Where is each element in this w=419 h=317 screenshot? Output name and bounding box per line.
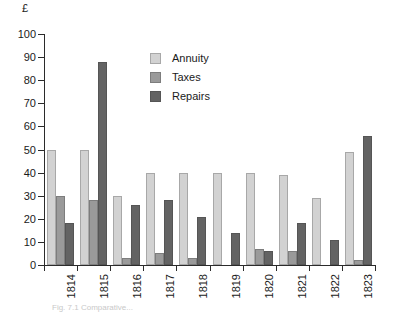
y-axis-tick-label-text: 10 [2,237,36,248]
x-axis-label-1820: 1820 [264,274,275,298]
legend-swatch-repairs [150,91,161,102]
bar-1817-repairs [164,200,173,265]
bar-1815-annuity [80,150,89,266]
x-axis-label-1816: 1816 [132,274,143,298]
y-axis-tick-label: 20 [0,214,36,225]
bar-1822-annuity [312,198,321,265]
y-axis-tick-label: 40 [0,168,36,179]
x-axis-label-1818: 1818 [198,274,209,298]
y-axis-unit-label: £ [22,2,28,14]
legend-label-taxes: Taxes [172,72,201,83]
bar-1819-repairs [231,233,240,265]
x-axis-label-1822: 1822 [330,274,341,298]
y-axis-tick-label: 100 [0,29,36,40]
x-axis-label-1815: 1815 [99,274,110,298]
bar-1823-annuity [345,152,354,265]
bar-1822-repairs [330,240,339,265]
figure-caption: Fig. 7.1 Comparative... [52,303,392,317]
bar-1817-taxes [155,253,164,265]
bar-1815-taxes [89,200,98,265]
bar-1816-taxes [122,258,131,265]
legend-item-taxes: Taxes [150,69,210,86]
x-axis-tick [276,266,277,271]
bar-1820-annuity [246,173,255,265]
y-axis-tick-label-text: 100 [2,29,36,40]
chart-legend: AnnuityTaxesRepairs [150,50,210,107]
y-axis-tick-label-text: 40 [2,168,36,179]
x-axis-label-1819: 1819 [231,274,242,298]
bar-1818-taxes [188,258,197,265]
legend-item-repairs: Repairs [150,88,210,105]
bar-chart: £ 0102030405060708090100 181418151816181… [0,0,419,317]
y-axis-tick-label: 70 [0,98,36,109]
bar-1816-repairs [131,205,140,265]
bar-1823-taxes [354,260,363,265]
bar-1821-taxes [288,251,297,265]
y-axis-tick-label-text: 50 [2,145,36,156]
legend-label-annuity: Annuity [172,53,209,64]
bar-1814-taxes [56,196,65,265]
y-axis-tick-label: 30 [0,191,36,202]
y-axis-tick-label: 90 [0,52,36,63]
y-axis-tick-label: 50 [0,145,36,156]
x-axis-tick [176,266,177,271]
bar-1817-annuity [146,173,155,265]
x-axis-tick [210,266,211,271]
y-axis-tick-label-text: 20 [2,214,36,225]
bar-1816-annuity [113,196,122,265]
x-axis-tick [342,266,343,271]
x-axis-tick [243,266,244,271]
bar-1820-taxes [255,249,264,265]
x-axis-label-1814: 1814 [66,274,77,298]
y-axis-tick-label-text: 70 [2,98,36,109]
y-axis-tick-label-text: 0 [2,260,36,271]
bar-1814-repairs [65,223,74,265]
y-axis-tick-label-text: 90 [2,52,36,63]
y-axis-tick-label-text: 30 [2,191,36,202]
y-axis-tick-label: 60 [0,121,36,132]
y-axis-tick-label: 0 [0,260,36,271]
legend-item-annuity: Annuity [150,50,210,67]
y-axis-tick-label-text: 80 [2,75,36,86]
bar-1823-repairs [363,136,372,265]
x-axis-tick [375,266,376,271]
x-axis-tick [77,266,78,271]
bar-1821-repairs [297,223,306,265]
x-axis-label-1821: 1821 [297,274,308,298]
bar-1820-repairs [264,251,273,265]
legend-label-repairs: Repairs [172,91,210,102]
bar-1819-annuity [213,173,222,265]
bar-1814-annuity [47,150,56,266]
y-axis-tick-label: 10 [0,237,36,248]
bar-1821-annuity [279,175,288,265]
legend-swatch-annuity [150,53,161,64]
x-axis-tick [110,266,111,271]
x-axis-tick [44,266,45,271]
y-axis-tick-label-text: 60 [2,121,36,132]
x-axis-tick [309,266,310,271]
x-axis-tick [143,266,144,271]
bar-1815-repairs [98,62,107,265]
x-axis-label-1823: 1823 [363,274,374,298]
legend-swatch-taxes [150,72,161,83]
bar-1818-repairs [197,217,206,266]
x-axis-label-1817: 1817 [165,274,176,298]
y-axis-tick-label: 80 [0,75,36,86]
bar-1818-annuity [179,173,188,265]
